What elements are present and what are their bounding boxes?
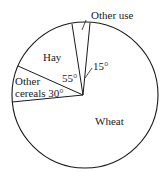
label-other-cereals-1: Other [15, 75, 40, 87]
pie-chart: Other use 15° Hay 55° Other cereals 30° … [0, 0, 166, 172]
label-hay: Hay [43, 51, 62, 63]
label-other-use: Other use [91, 9, 134, 21]
label-wheat: Wheat [95, 115, 124, 127]
label-angle-15: 15° [93, 60, 108, 72]
label-angle-55: 55° [62, 72, 77, 84]
label-other-cereals-2: cereals 30° [15, 87, 64, 99]
